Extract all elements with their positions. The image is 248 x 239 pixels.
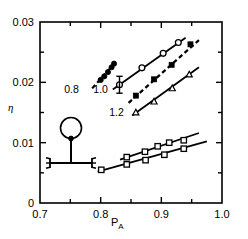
- y-tick-label: 0.01: [13, 137, 34, 149]
- data-point-series-5: [155, 144, 160, 149]
- y-tick-label: 0.02: [13, 76, 34, 88]
- axis-frame: [40, 22, 222, 203]
- data-point-0.8: [102, 74, 107, 79]
- data-point-0.8: [105, 69, 110, 74]
- data-point-series-5: [142, 149, 147, 154]
- series-annotation: 0.8: [64, 83, 79, 95]
- x-axis-label-sub: A: [118, 222, 123, 231]
- data-point-series-6: [181, 146, 186, 151]
- data-point-1.2: [152, 77, 157, 82]
- inset-terminal-prong: [46, 167, 50, 168]
- data-point-series-5: [181, 138, 186, 143]
- data-point-0.8: [111, 61, 116, 66]
- data-point-1.0: [160, 50, 166, 56]
- x-tick-label: 0.8: [93, 208, 108, 220]
- y-tick-labels: 00.010.020.03: [13, 16, 34, 209]
- data-point-1.0: [175, 40, 181, 46]
- data-point-series-5: [167, 140, 172, 145]
- inset-terminal-prong: [46, 158, 50, 159]
- x-tick-labels: 0.70.80.91.0: [32, 208, 229, 220]
- x-tick-label: 1.0: [214, 208, 229, 220]
- x-axis-label: PA: [111, 216, 124, 231]
- inset-ring: [61, 118, 82, 139]
- data-point-series-6: [124, 162, 129, 167]
- series-line-1.0: [113, 38, 186, 90]
- molecular-schematic-inset: [46, 118, 96, 169]
- data-point-series-6: [143, 157, 148, 162]
- y-axis-label: η: [8, 101, 13, 113]
- axis-ticks: [40, 22, 222, 203]
- series-annotation: 1.2: [109, 106, 124, 118]
- inset-terminal-prong: [92, 158, 96, 159]
- figure-panel: 0.70.80.91.0 00.010.020.03 0.81.01.2 η P…: [0, 0, 248, 239]
- y-tick-label: 0: [28, 197, 34, 209]
- x-tick-label: 0.9: [154, 208, 169, 220]
- series-annotation: 1.0: [93, 83, 108, 95]
- data-point-series-5: [124, 154, 129, 159]
- data-point-1.0: [139, 65, 145, 71]
- data-point-1.2: [133, 93, 138, 98]
- y-tick-label: 0.03: [13, 16, 34, 28]
- inset-terminal-prong: [92, 167, 96, 168]
- chart-canvas: 0.70.80.91.0 00.010.020.03 0.81.01.2: [0, 0, 248, 239]
- series-line-series-6: [98, 141, 207, 171]
- data-point-series-4: [133, 109, 139, 115]
- data-point-series-6: [162, 152, 167, 157]
- x-tick-label: 0.7: [32, 208, 47, 220]
- data-point-1.2: [169, 62, 174, 67]
- data-point-1.2: [188, 42, 193, 47]
- data-point-series-6: [99, 167, 104, 172]
